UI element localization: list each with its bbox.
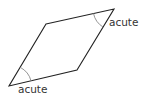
angle-label-top-right: acute	[109, 16, 138, 28]
parallelogram-diagram: acute acute	[0, 0, 144, 95]
parallelogram-shape	[9, 9, 114, 86]
angle-label-bottom-left: acute	[18, 83, 47, 95]
angle-arc-bottom-left	[21, 68, 32, 81]
angle-arc-top-right	[94, 14, 104, 28]
